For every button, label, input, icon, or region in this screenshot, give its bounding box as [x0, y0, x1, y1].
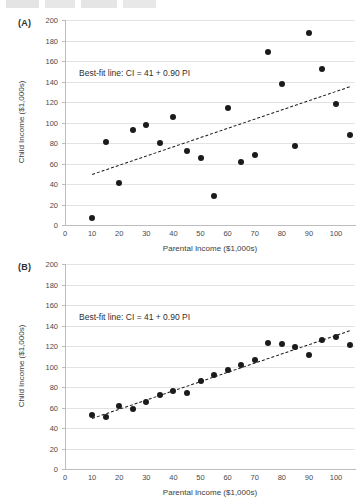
y-axis-tick-label: 40 — [18, 180, 58, 189]
data-point — [292, 344, 298, 350]
x-axis-tick-label: 90 — [294, 229, 324, 238]
data-point — [184, 148, 190, 154]
y-axis-line — [65, 264, 66, 470]
x-axis-tick-label: 40 — [158, 229, 188, 238]
x-axis-tick-label: 20 — [104, 229, 134, 238]
data-point — [306, 352, 312, 358]
data-point — [143, 122, 149, 128]
data-point — [333, 101, 339, 107]
y-axis-tick-label: 160 — [18, 301, 58, 310]
data-point — [319, 337, 325, 343]
y-axis-line — [65, 20, 66, 226]
data-point — [170, 388, 176, 394]
data-point — [225, 367, 231, 373]
y-axis-tick-label: 120 — [18, 342, 58, 351]
data-point — [157, 140, 163, 146]
y-axis-tick-label: 80 — [18, 139, 58, 148]
x-axis-tick-label: 10 — [77, 473, 107, 482]
y-axis-tick-label: 40 — [18, 424, 58, 433]
y-axis-tick-label: 80 — [18, 383, 58, 392]
y-axis-tick-label: 60 — [18, 159, 58, 168]
data-point — [265, 340, 271, 346]
data-point — [292, 143, 298, 149]
gridline-horizontal — [65, 346, 355, 347]
x-axis-line — [65, 225, 356, 226]
data-point — [306, 30, 312, 36]
y-axis-tick-label: 60 — [18, 403, 58, 412]
x-axis-tick-label: 50 — [186, 229, 216, 238]
data-point — [130, 406, 136, 412]
data-point — [130, 127, 136, 133]
x-axis-tick-label: 80 — [267, 473, 297, 482]
x-axis-tick-label: 10 — [77, 229, 107, 238]
data-point — [265, 49, 271, 55]
data-point — [211, 193, 217, 199]
gridline-horizontal — [65, 82, 355, 83]
chart-panel-b: (B) Child Income ($1,000s) Parental Inco… — [0, 250, 362, 498]
x-axis-tick-label: 20 — [104, 473, 134, 482]
x-axis-tick-label: 70 — [240, 229, 270, 238]
x-axis-tick-label: 30 — [131, 473, 161, 482]
y-axis-tick-label: 180 — [18, 36, 58, 45]
best-fit-annotation: Best-fit line: CI = 41 + 0.90 PI — [79, 68, 190, 78]
gridline-horizontal — [65, 102, 355, 103]
data-point — [279, 81, 285, 87]
y-axis-tick-label: 160 — [18, 57, 58, 66]
data-point — [347, 132, 353, 138]
y-axis-tick-label: 140 — [18, 77, 58, 86]
gridline-horizontal — [65, 367, 355, 368]
data-point — [252, 152, 258, 158]
data-point — [103, 139, 109, 145]
data-point — [238, 362, 244, 368]
plot-area-b: Child Income ($1,000s) Parental Income (… — [65, 264, 355, 469]
x-axis-tick-label: 0 — [50, 229, 80, 238]
gridline-horizontal — [65, 61, 355, 62]
data-point — [198, 155, 204, 161]
gridline-horizontal — [65, 408, 355, 409]
gridline-horizontal — [65, 449, 355, 450]
y-axis-tick-label: 140 — [18, 321, 58, 330]
data-point — [198, 378, 204, 384]
y-axis-tick-label: 200 — [18, 16, 58, 25]
gridline-horizontal — [65, 285, 355, 286]
x-axis-tick-label: 0 — [50, 473, 80, 482]
y-axis-tick-label: 180 — [18, 280, 58, 289]
data-point — [157, 392, 163, 398]
plot-area-a: Child Income ($1,000s) Parental Income (… — [65, 20, 355, 225]
gridline-horizontal — [65, 305, 355, 306]
data-point — [116, 180, 122, 186]
x-axis-tick-label: 90 — [294, 473, 324, 482]
gridline-horizontal — [65, 20, 355, 21]
x-axis-tick-label: 50 — [186, 473, 216, 482]
y-axis-tick-label: 100 — [18, 118, 58, 127]
data-point — [211, 372, 217, 378]
data-point — [103, 414, 109, 420]
y-axis-tick-label: 120 — [18, 98, 58, 107]
data-point — [225, 105, 231, 111]
x-axis-tick-label: 100 — [321, 229, 351, 238]
x-axis-title-b: Parental Income ($1,000s) — [163, 488, 257, 497]
data-point — [89, 215, 95, 221]
y-axis-tick-label: 200 — [18, 260, 58, 269]
gridline-horizontal — [65, 205, 355, 206]
y-axis-tick-label: 20 — [18, 200, 58, 209]
data-point — [184, 390, 190, 396]
x-axis-tick-label: 40 — [158, 473, 188, 482]
data-point — [319, 66, 325, 72]
data-point — [89, 412, 95, 418]
x-axis-line — [65, 469, 356, 470]
gridline-horizontal — [65, 164, 355, 165]
x-axis-tick-label: 60 — [213, 473, 243, 482]
best-fit-annotation: Best-fit line: CI = 41 + 0.90 PI — [79, 312, 190, 322]
x-axis-tick-label: 80 — [267, 229, 297, 238]
gridline-horizontal — [65, 41, 355, 42]
gridline-horizontal — [65, 387, 355, 388]
data-point — [333, 334, 339, 340]
gridline-horizontal — [65, 428, 355, 429]
chart-panel-a: (A) Child Income ($1,000s) Parental Inco… — [0, 6, 362, 254]
data-point — [347, 342, 353, 348]
gridline-horizontal — [65, 123, 355, 124]
data-point — [252, 357, 258, 363]
data-point — [116, 403, 122, 409]
y-axis-tick-label: 100 — [18, 362, 58, 371]
